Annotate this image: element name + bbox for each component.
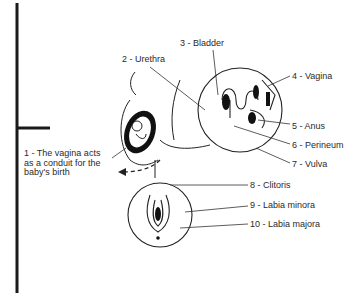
label-labia-majora: 10 - Labia majora [250, 219, 320, 229]
label-vulva: 7 - Vulva [292, 159, 327, 169]
label-clitoris: 8 - Clitoris [250, 180, 291, 190]
label-vagina: 4 - Vagina [292, 71, 332, 81]
label-labia-minora: 9 - Labia minora [250, 200, 315, 210]
label-anus: 5 - Anus [292, 121, 325, 131]
birth-caption: 1 - The vagina acts as a conduit for the… [24, 149, 114, 178]
vaginal-opening [155, 207, 161, 221]
label-bladder: 3 - Bladder [180, 38, 224, 48]
label-urethra: 2 - Urethra [122, 54, 165, 64]
cross-section-circle [198, 68, 282, 152]
arrow-head-icon [118, 168, 126, 176]
label-perineum: 6 - Perineum [292, 140, 344, 150]
